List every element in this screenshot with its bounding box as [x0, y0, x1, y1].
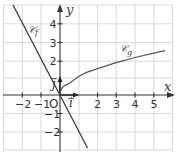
x-tick-label: 5	[151, 98, 158, 111]
x-tick-label: 2	[94, 98, 101, 111]
origin-label: O	[49, 97, 58, 111]
x-axis-label: x	[164, 79, 172, 94]
x-tick-label: −2	[15, 98, 31, 111]
vector-j-arrow-icon	[58, 76, 63, 82]
y-tick-label: −2	[44, 126, 60, 139]
y-tick-label: 4	[50, 18, 57, 31]
y-axis-label: y	[65, 2, 74, 17]
j-label: j	[49, 77, 56, 91]
x-tick-label: 3	[113, 98, 120, 111]
x-tick-label: 4	[132, 98, 139, 111]
vector-i-arrow-icon	[73, 93, 79, 98]
function-graph: −2 −1 2 3 4 5 4 3 2 −1 −2 x y O j i 𝒞f 𝒞…	[0, 0, 178, 153]
y-tick-label: 3	[50, 37, 57, 50]
curve-g	[60, 51, 165, 95]
i-label: i	[69, 96, 73, 110]
curve-g-label-sub: g	[127, 48, 132, 57]
curve-f-label: 𝒞f	[28, 24, 40, 37]
y-tick-label: 2	[50, 55, 57, 68]
curve-f-label-sub: f	[34, 28, 40, 37]
curve-g-label: 𝒞g	[120, 43, 132, 57]
